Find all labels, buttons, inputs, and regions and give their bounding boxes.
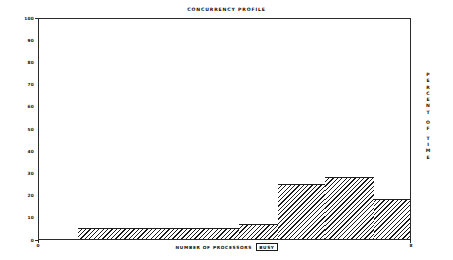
step-bar [278,184,325,240]
y-tick-label: 20 [8,193,34,198]
plot-area [38,18,411,240]
legend-busy: BUSY [256,243,277,251]
step-bar [78,228,239,239]
y-tick-label: 100 [8,16,34,21]
y-tick-label: 60 [8,104,34,109]
step-bar [325,177,374,239]
y-tick-label: 10 [8,215,34,220]
x-axis-title: NUMBER OF PROCESSORS [175,245,252,250]
y-tick-label: 30 [8,171,34,176]
y-axis-title-char: E [422,155,434,161]
step-bar [239,224,279,240]
y-tick-label: 80 [8,60,34,65]
y-tick-label: 40 [8,149,34,154]
y-tick-label: 0 [8,238,34,243]
x-axis-title-row: NUMBER OF PROCESSORSBUSY [0,243,453,251]
step-bar [374,199,411,239]
concurrency-profile-chart: CONCURRENCY PROFILE 100 90 80 70 60 50 4… [0,0,453,260]
y-tick-label: 90 [8,38,34,43]
step-series [39,19,410,239]
y-tick-label: 70 [8,82,34,87]
chart-title: CONCURRENCY PROFILE [0,7,453,13]
y-tick-label: 50 [8,127,34,132]
y-axis-title: P E R C E N T O F T I M E [422,72,434,161]
